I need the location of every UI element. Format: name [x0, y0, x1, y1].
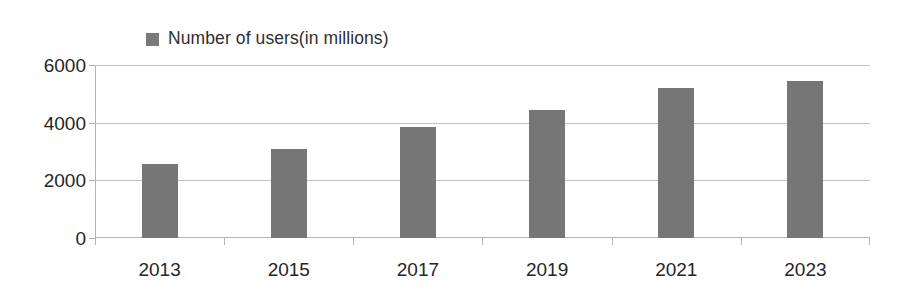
bar-slot-2017: [353, 65, 482, 238]
bar-slot-2019: [483, 65, 612, 238]
bar-2013: [142, 164, 178, 238]
x-axis-tick-5: [741, 238, 742, 245]
x-axis: 2013 2015 2017 2019 2021 2023: [95, 238, 870, 298]
bar-2023: [787, 81, 823, 238]
bar-slot-2013: [95, 65, 224, 238]
x-axis-label-2015: 2015: [224, 260, 354, 279]
x-axis-tick-1: [224, 238, 225, 245]
bar-slot-2021: [612, 65, 741, 238]
legend-color-swatch-icon: [146, 33, 159, 46]
bar-chart: Number of users(in millions) 0 2000 4000…: [0, 0, 906, 298]
x-axis-label-2023: 2023: [740, 260, 870, 279]
x-axis-tick-6: [869, 238, 870, 245]
chart-legend: Number of users(in millions): [146, 27, 389, 51]
bar-2015: [271, 149, 307, 238]
x-axis-label-2013: 2013: [95, 260, 225, 279]
bar-2019: [529, 110, 565, 238]
y-axis-tick-label-0: 0: [14, 229, 86, 248]
bar-group: [95, 65, 870, 238]
x-axis-label-2019: 2019: [482, 260, 612, 279]
bar-2017: [400, 127, 436, 238]
y-axis-tick-label-2000: 2000: [14, 171, 86, 190]
y-axis-tick-label-4000: 4000: [14, 114, 86, 133]
bar-2021: [658, 88, 694, 238]
x-axis-label-2017: 2017: [353, 260, 483, 279]
x-axis-tick-4: [612, 238, 613, 245]
x-axis-tick-2: [353, 238, 354, 245]
plot-area: [95, 65, 870, 238]
bar-slot-2015: [224, 65, 353, 238]
x-axis-tick-0: [95, 238, 96, 245]
x-axis-tick-3: [482, 238, 483, 245]
y-axis-labels: 0 2000 4000 6000: [0, 0, 86, 298]
x-axis-label-2021: 2021: [611, 260, 741, 279]
y-axis-tick-label-6000: 6000: [14, 56, 86, 75]
legend-item-label: Number of users(in millions): [168, 30, 389, 48]
bar-slot-2023: [741, 65, 870, 238]
